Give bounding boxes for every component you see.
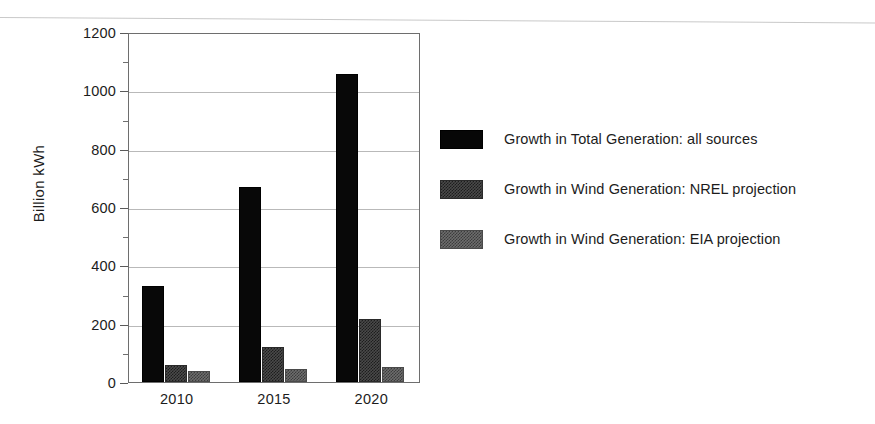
y-axis-tick-label-wrap: 1200 bbox=[54, 26, 116, 40]
y-axis-tick bbox=[120, 266, 128, 267]
legend-item: Growth in Total Generation: all sources bbox=[440, 120, 860, 170]
bar-eia-2015 bbox=[285, 369, 307, 382]
bar-chart: Billion kWh 020040060080010001200 201020… bbox=[0, 0, 875, 424]
bar-eia-2020 bbox=[382, 367, 404, 382]
bar-nrel-2015 bbox=[262, 347, 284, 382]
legend-label: Growth in Total Generation: all sources bbox=[504, 131, 757, 147]
gridline bbox=[129, 151, 419, 152]
legend-item: Growth in Wind Generation: EIA projectio… bbox=[440, 220, 860, 270]
bar-nrel-2020 bbox=[359, 319, 381, 382]
y-axis-tick-label-wrap: 800 bbox=[54, 143, 116, 157]
y-axis-tick-label: 800 bbox=[60, 143, 116, 157]
y-axis-tick bbox=[120, 150, 128, 151]
y-axis-tick-label-wrap: 200 bbox=[54, 318, 116, 332]
gridline bbox=[129, 92, 419, 93]
y-axis-tick-label-wrap: 1000 bbox=[54, 84, 116, 98]
legend-swatch-nrel bbox=[440, 180, 483, 199]
y-axis-tick-label: 200 bbox=[60, 318, 116, 332]
x-axis-tick-label: 2020 bbox=[331, 391, 411, 407]
legend-label: Growth in Wind Generation: EIA projectio… bbox=[504, 231, 781, 247]
y-axis-tick-label: 400 bbox=[60, 259, 116, 273]
legend-label: Growth in Wind Generation: NREL projecti… bbox=[504, 181, 796, 197]
legend-swatch-total bbox=[440, 130, 483, 149]
bar-total-2015 bbox=[239, 187, 261, 382]
gridline bbox=[129, 209, 419, 210]
plot-area bbox=[128, 33, 420, 383]
legend-swatch-eia bbox=[440, 230, 483, 249]
y-axis-tick-label: 1000 bbox=[60, 84, 116, 98]
x-axis-tick-label: 2010 bbox=[137, 391, 217, 407]
y-axis-tick-label: 1200 bbox=[60, 26, 116, 40]
y-axis-tick bbox=[120, 383, 128, 384]
y-axis-tick-label: 600 bbox=[60, 201, 116, 215]
y-axis-tick-label-wrap: 400 bbox=[54, 259, 116, 273]
x-axis-tick-label: 2015 bbox=[234, 391, 314, 407]
bar-eia-2010 bbox=[188, 371, 210, 382]
y-axis-title: Billion kWh bbox=[30, 124, 47, 244]
chart-legend: Growth in Total Generation: all sourcesG… bbox=[440, 120, 860, 270]
bar-nrel-2010 bbox=[165, 365, 187, 383]
y-axis-tick bbox=[120, 91, 128, 92]
y-axis-tick-label: 0 bbox=[60, 376, 116, 390]
legend-item: Growth in Wind Generation: NREL projecti… bbox=[440, 170, 860, 220]
gridline bbox=[129, 267, 419, 268]
y-axis-tick-label-wrap: 0 bbox=[54, 376, 116, 390]
y-axis-tick-label-wrap: 600 bbox=[54, 201, 116, 215]
y-axis-tick bbox=[120, 325, 128, 326]
bar-total-2020 bbox=[336, 74, 358, 382]
y-axis-tick bbox=[120, 208, 128, 209]
bar-total-2010 bbox=[142, 286, 164, 382]
y-axis-tick bbox=[120, 33, 128, 34]
